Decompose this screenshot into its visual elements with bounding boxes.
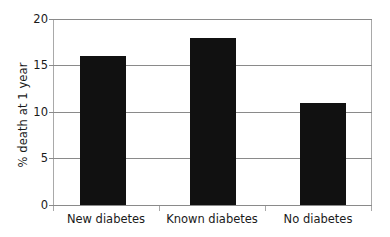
x-tick-mark-2 bbox=[265, 206, 266, 211]
x-label-known-diabetes: Known diabetes bbox=[159, 212, 265, 226]
bar-no-diabetes bbox=[300, 103, 346, 205]
y-tick-label-20: 20 bbox=[0, 14, 48, 26]
y-tick-label-0: 0 bbox=[0, 200, 48, 212]
gridline-0-baseline bbox=[53, 205, 372, 206]
y-tick-label-5: 5 bbox=[0, 153, 48, 165]
plot-area bbox=[53, 19, 372, 205]
bar-known-diabetes bbox=[190, 38, 236, 205]
x-tick-mark-3 bbox=[371, 206, 372, 211]
x-tick-mark-0 bbox=[53, 206, 54, 211]
y-tick-label-15: 15 bbox=[0, 60, 48, 72]
x-label-no-diabetes: No diabetes bbox=[265, 212, 371, 226]
bar-new-diabetes bbox=[80, 56, 126, 205]
gridline-20 bbox=[53, 19, 372, 20]
x-tick-mark-1 bbox=[159, 206, 160, 211]
bar-chart: % death at 1 year 20 15 10 5 0 New bbox=[0, 0, 390, 237]
y-tick-label-10: 10 bbox=[0, 107, 48, 119]
x-label-new-diabetes: New diabetes bbox=[53, 212, 159, 226]
